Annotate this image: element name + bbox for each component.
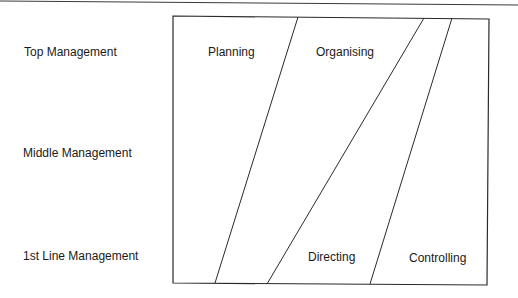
function-organising: Organising xyxy=(316,45,374,59)
level-top-management: Top Management xyxy=(24,45,117,59)
function-controlling: Controlling xyxy=(409,251,466,265)
function-directing: Directing xyxy=(308,250,355,264)
divider-directing-controlling xyxy=(370,18,452,284)
level-1st-line-management: 1st Line Management xyxy=(23,249,138,263)
level-middle-management: Middle Management xyxy=(23,146,132,160)
top-rule xyxy=(0,1,518,5)
function-planning: Planning xyxy=(208,45,255,59)
